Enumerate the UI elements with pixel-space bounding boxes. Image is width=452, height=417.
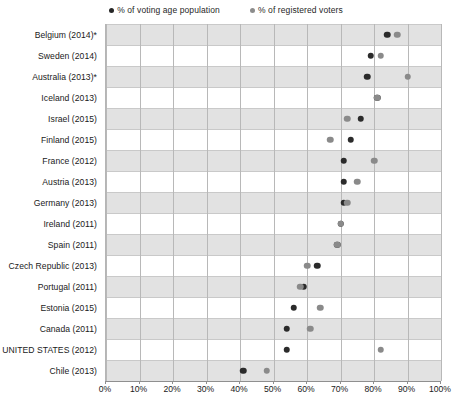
data-point-reg bbox=[334, 241, 341, 248]
x-axis-tick-mark bbox=[273, 381, 274, 384]
y-axis-label: Belgium (2014)* bbox=[35, 30, 97, 40]
x-axis-tick-labels: 0%10%20%30%40%50%60%70%80%90%100% bbox=[0, 384, 452, 400]
x-axis-tick-mark bbox=[440, 381, 441, 384]
x-axis-tick-label: 50% bbox=[264, 384, 281, 394]
y-axis-label: Australia (2013)* bbox=[32, 72, 97, 82]
y-axis-label: Finland (2015) bbox=[41, 135, 97, 145]
data-point-reg bbox=[404, 73, 411, 80]
data-point-reg bbox=[337, 220, 344, 227]
x-axis-tick-mark bbox=[407, 381, 408, 384]
chart-legend: % of voting age population % of register… bbox=[0, 2, 452, 18]
data-point-vap bbox=[367, 52, 374, 59]
x-axis-tick-label: 40% bbox=[230, 384, 247, 394]
data-point-vap bbox=[364, 73, 371, 80]
y-axis-label: Austria (2013) bbox=[42, 177, 97, 187]
y-axis-label: Estonia (2015) bbox=[40, 303, 97, 313]
y-axis-label: Israel (2015) bbox=[48, 114, 97, 124]
x-axis-tick-mark bbox=[373, 381, 374, 384]
legend-entry-registered-voters: % of registered voters bbox=[250, 5, 343, 15]
y-axis-label: Portugal (2011) bbox=[38, 282, 97, 292]
x-axis-tick-label: 20% bbox=[163, 384, 180, 394]
data-point-reg bbox=[307, 325, 314, 332]
x-axis-tick-label: 60% bbox=[297, 384, 314, 394]
data-point-reg bbox=[371, 157, 378, 164]
data-point-vap bbox=[284, 325, 291, 332]
y-axis-label: Canada (2011) bbox=[40, 324, 97, 334]
data-point-reg bbox=[317, 304, 324, 311]
data-point-reg bbox=[354, 178, 361, 185]
data-point-reg bbox=[304, 262, 311, 269]
data-point-vap bbox=[357, 115, 364, 122]
y-axis-category-labels: Belgium (2014)*Sweden (2014)Australia (2… bbox=[0, 24, 101, 381]
y-axis-label: Ireland (2011) bbox=[43, 219, 97, 229]
y-axis-label: Czech Republic (2013) bbox=[9, 261, 97, 271]
data-point-vap bbox=[384, 31, 391, 38]
data-point-vap bbox=[341, 178, 348, 185]
data-point-reg bbox=[377, 346, 384, 353]
data-point-vap bbox=[314, 262, 321, 269]
x-axis-tick-label: 90% bbox=[398, 384, 415, 394]
y-axis-label: UNITED STATES (2012) bbox=[2, 345, 97, 355]
x-axis-tick-mark bbox=[172, 381, 173, 384]
data-point-reg bbox=[344, 199, 351, 206]
data-point-reg bbox=[344, 115, 351, 122]
x-axis-tick-label: 70% bbox=[331, 384, 348, 394]
x-axis-tick-label: 10% bbox=[130, 384, 147, 394]
data-point-vap bbox=[347, 136, 354, 143]
x-axis-tick-mark bbox=[139, 381, 140, 384]
y-axis-label: France (2012) bbox=[42, 156, 97, 166]
x-axis-tick-mark bbox=[105, 381, 106, 384]
legend-entry-voting-age-population: % of voting age population bbox=[109, 5, 220, 15]
legend-swatch-icon-reg bbox=[250, 8, 255, 13]
data-point-reg bbox=[374, 94, 381, 101]
legend-swatch-icon-vap bbox=[109, 8, 114, 13]
x-axis-tick-mark bbox=[306, 381, 307, 384]
data-point-vap bbox=[290, 304, 297, 311]
x-axis-tick-label: 0% bbox=[99, 384, 111, 394]
gridline-vertical bbox=[441, 24, 442, 381]
y-axis-label: Sweden (2014) bbox=[38, 51, 97, 61]
x-axis-tick-mark bbox=[206, 381, 207, 384]
x-axis-tick-label: 100% bbox=[429, 384, 451, 394]
legend-label-reg: % of registered voters bbox=[258, 5, 343, 15]
data-point-reg bbox=[327, 136, 334, 143]
data-point-vap bbox=[284, 346, 291, 353]
voter-turnout-scatter-chart: % of voting age population % of register… bbox=[0, 0, 452, 417]
y-axis-label: Germany (2013) bbox=[34, 198, 97, 208]
data-point-vap bbox=[341, 157, 348, 164]
x-axis-tick-mark bbox=[340, 381, 341, 384]
x-axis-tick-label: 30% bbox=[197, 384, 214, 394]
data-point-reg bbox=[297, 283, 304, 290]
data-points-layer bbox=[106, 24, 441, 381]
y-axis-label: Spain (2011) bbox=[48, 240, 97, 250]
data-point-vap bbox=[240, 367, 247, 374]
data-point-reg bbox=[264, 367, 271, 374]
x-axis-tick-mark bbox=[239, 381, 240, 384]
y-axis-label: Iceland (2013) bbox=[41, 93, 97, 103]
y-axis-label: Chile (2013) bbox=[50, 366, 97, 376]
legend-label-vap: % of voting age population bbox=[117, 5, 220, 15]
x-axis-tick-label: 80% bbox=[364, 384, 381, 394]
data-point-reg bbox=[377, 52, 384, 59]
plot-area bbox=[105, 24, 442, 381]
data-point-reg bbox=[394, 31, 401, 38]
